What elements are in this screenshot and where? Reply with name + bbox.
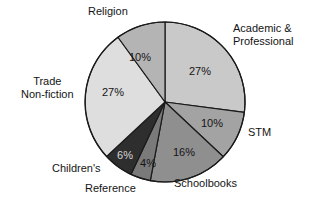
academic-line-1: Academic & [233, 22, 292, 34]
pie-category-label-schoolbooks: Schoolbooks [174, 177, 237, 190]
pie-category-label-reference: Reference [85, 182, 136, 195]
pie-category-label-academic-professional: Academic &Professional [233, 22, 294, 48]
pie-category-label-trade-non-fiction: TradeNon-fiction [21, 75, 74, 101]
pie-category-label-religion: Religion [88, 5, 128, 18]
pie-value-label-childrens: 6% [117, 149, 133, 161]
pie-value-label-trade-non-fiction: 27% [102, 86, 124, 98]
pie-value-label-religion: 10% [129, 51, 151, 63]
academic-line-2: Professional [233, 35, 294, 47]
trade-line-1: Trade [33, 75, 61, 87]
pie-value-label-academic-professional: 27% [189, 65, 211, 77]
pie-category-label-childrens: Children's [52, 162, 101, 175]
pie-chart-figure: 27% 10% 16% 4% 6% 27% 10% Religion Acade… [0, 0, 310, 205]
pie-value-label-schoolbooks: 16% [173, 146, 195, 158]
trade-line-2: Non-fiction [21, 88, 74, 100]
pie-value-label-stm: 10% [201, 117, 223, 129]
pie-category-label-stm: STM [248, 126, 271, 139]
pie-value-label-reference: 4% [140, 157, 156, 169]
